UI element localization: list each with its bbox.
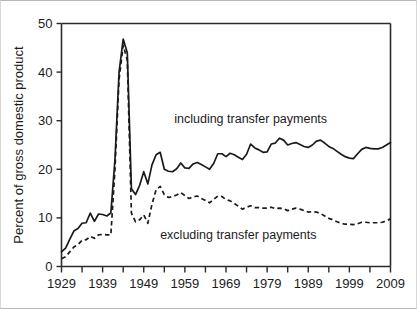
y-axis-tick-labels: 01020304050: [38, 16, 52, 274]
line-chart: Percent of gross domestic product 010203…: [1, 1, 417, 309]
series-line-solid: [62, 39, 391, 252]
y-tick-label: 20: [38, 162, 52, 177]
series-label: excluding transfer payments: [160, 228, 316, 242]
x-tick-label: 1999: [335, 276, 364, 291]
x-tick-label: 1959: [170, 276, 199, 291]
y-axis-title: Percent of gross domestic product: [11, 46, 26, 244]
data-series-group: [62, 39, 391, 259]
x-tick-label: 1979: [253, 276, 282, 291]
y-tick-label: 30: [38, 113, 52, 128]
x-tick-label: 1929: [47, 276, 76, 291]
chart-figure: Percent of gross domestic product 010203…: [0, 0, 417, 309]
y-tick-label: 0: [45, 259, 52, 274]
series-line-dashed: [62, 45, 391, 258]
series-annotations: including transfer paymentsexcluding tra…: [160, 112, 327, 243]
x-tick-label: 1989: [294, 276, 323, 291]
y-tick-label: 10: [38, 210, 52, 225]
y-tick-label: 50: [38, 16, 52, 31]
x-axis-tick-labels: 192919391949195919691979198919992009: [47, 276, 405, 291]
x-tick-label: 2009: [376, 276, 405, 291]
x-axis-ticks: [62, 267, 391, 273]
x-tick-label: 1969: [212, 276, 241, 291]
x-tick-label: 1949: [129, 276, 158, 291]
x-tick-label: 1939: [88, 276, 117, 291]
series-label: including transfer payments: [174, 112, 327, 126]
y-tick-label: 40: [38, 65, 52, 80]
